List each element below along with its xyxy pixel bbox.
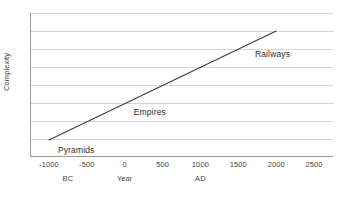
x-axis-tick-label: 2000: [268, 160, 285, 169]
gridline: [31, 121, 333, 122]
complexity-vs-year-chart: Complexity -1000-50005001000150020002500…: [0, 0, 345, 197]
gridline: [31, 103, 333, 104]
x-axis-tick-label: 500: [156, 160, 169, 169]
gridline: [31, 139, 333, 140]
y-axis-title-text: Complexity: [2, 53, 11, 91]
plot-area: [30, 13, 333, 157]
gridline: [31, 31, 333, 32]
x-axis-era-label: BC: [63, 174, 74, 183]
gridline: [31, 67, 333, 68]
x-axis-tick-label: -500: [79, 160, 94, 169]
plot-annotation: Empires: [134, 107, 166, 117]
plot-annotation: Railways: [255, 49, 290, 59]
x-axis-era-label: AD: [195, 174, 206, 183]
x-axis-tick-label: 1500: [230, 160, 247, 169]
plot-annotation: Pyramids: [58, 145, 95, 155]
x-axis-era-label: Year: [117, 174, 133, 183]
x-axis-tick-label: 1000: [192, 160, 209, 169]
chart-screenshot: Complexity -1000-50005001000150020002500…: [0, 0, 345, 197]
x-axis-tick-label: 0: [123, 160, 127, 169]
gridline: [31, 13, 333, 14]
x-axis-tick-label: -1000: [39, 160, 59, 169]
x-axis-tick-label: 2500: [306, 160, 323, 169]
gridline: [31, 85, 333, 86]
